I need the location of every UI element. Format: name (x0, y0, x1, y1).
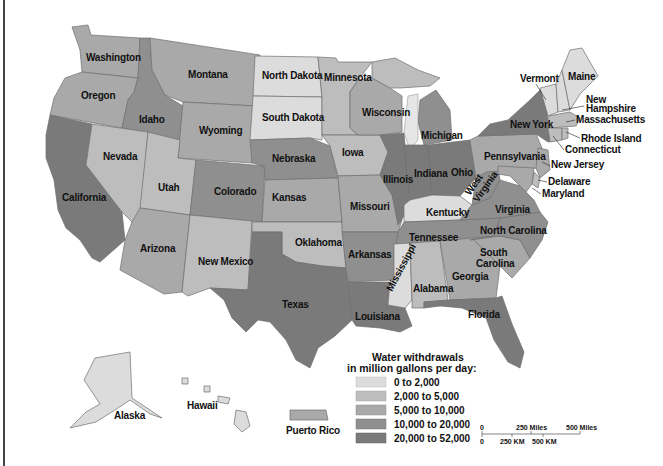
label-new-jersey: New Jersey (551, 159, 605, 170)
label-kentucky: Kentucky (426, 207, 470, 218)
label-louisiana: Louisiana (355, 311, 401, 322)
legend-label-1: 2,000 to 5,000 (394, 391, 459, 402)
legend-label-3: 10,000 to 20,000 (394, 419, 471, 430)
lake-michigan (404, 94, 418, 150)
label-arkansas: Arkansas (348, 249, 392, 260)
label-nevada: Nevada (103, 151, 138, 162)
label-vermont: Vermont (520, 73, 559, 84)
label-montana: Montana (188, 69, 228, 80)
label-michigan: Michigan (421, 130, 463, 141)
legend-label-0: 0 to 2,000 (394, 377, 440, 388)
legend-swatch-3 (356, 419, 386, 429)
label-maryland: Maryland (542, 188, 584, 199)
state-hawaii[interactable] (234, 410, 250, 432)
state-michigan-up[interactable] (372, 58, 440, 88)
label-colorado: Colorado (214, 186, 256, 197)
legend-label-2: 5,000 to 10,000 (394, 405, 465, 416)
legend: Water withdrawals in million gallons per… (347, 351, 477, 444)
label-minnesota: Minnesota (324, 72, 372, 83)
scale-miles-500: 500 Miles (566, 424, 597, 431)
label-utah: Utah (158, 182, 180, 193)
label-south-dakota: South Dakota (262, 112, 325, 123)
us-water-withdrawal-map: Washington Oregon California Idaho Nevad… (0, 0, 663, 466)
label-wyoming: Wyoming (199, 125, 243, 136)
label-delaware: Delaware (548, 176, 591, 187)
label-massachusetts: Massachusetts (576, 114, 646, 125)
label-texas: Texas (282, 299, 309, 310)
label-wisconsin: Wisconsin (362, 107, 410, 118)
label-florida: Florida (468, 309, 501, 320)
legend-title-line2: in million gallons per day: (347, 362, 477, 374)
state-rhode-island[interactable] (562, 128, 568, 140)
label-puerto-rico: Puerto Rico (286, 425, 340, 436)
label-south-carolina-line1: South (480, 247, 507, 258)
scale-km-500: 500 KM (532, 438, 557, 445)
label-alabama: Alabama (413, 283, 454, 294)
legend-swatch-1 (356, 391, 386, 401)
scale-miles-250: 250 Miles (516, 424, 547, 431)
label-idaho: Idaho (139, 114, 165, 125)
scale-km-0: 0 (480, 438, 484, 445)
label-north-carolina: North Carolina (480, 225, 547, 236)
label-alaska: Alaska (114, 410, 146, 421)
label-north-dakota: North Dakota (262, 70, 323, 81)
label-new-mexico: New Mexico (198, 256, 253, 267)
label-georgia: Georgia (452, 271, 489, 282)
label-new-york: New York (510, 119, 554, 130)
label-illinois: Illinois (383, 174, 414, 185)
legend-label-4: 20,000 to 52,000 (394, 433, 471, 444)
label-nebraska: Nebraska (272, 153, 316, 164)
label-rhode-island: Rhode Island (581, 133, 641, 144)
label-virginia: Virginia (495, 204, 531, 215)
label-indiana: Indiana (414, 168, 448, 179)
label-tennessee: Tennessee (409, 232, 459, 243)
label-hawaii: Hawaii (187, 400, 218, 411)
scale-miles-0: 0 (480, 424, 484, 431)
label-south-carolina-line2: Carolina (476, 258, 515, 269)
label-connecticut: Connecticut (565, 144, 621, 155)
label-california: California (62, 192, 107, 203)
legend-swatch-4 (356, 433, 386, 443)
legend-swatch-0 (356, 377, 386, 387)
territory-puerto-rico[interactable] (290, 410, 328, 420)
state-connecticut[interactable] (548, 128, 562, 142)
label-ohio: Ohio (451, 167, 473, 178)
map-frame: Washington Oregon California Idaho Nevad… (0, 0, 663, 466)
label-maine: Maine (568, 71, 596, 82)
label-oregon: Oregon (81, 90, 115, 101)
scale-km-250: 250 KM (500, 438, 525, 445)
label-new-hampshire-line2: Hampshire (586, 103, 637, 114)
scale-bar: 0 250 Miles 500 Miles 0 250 KM 500 KM (480, 424, 597, 445)
label-kansas: Kansas (272, 192, 307, 203)
label-pennsylvania: Pennsylvania (484, 151, 546, 162)
legend-swatch-2 (356, 405, 386, 415)
label-washington: Washington (86, 52, 141, 63)
label-iowa: Iowa (342, 147, 364, 158)
label-oklahoma: Oklahoma (295, 237, 342, 248)
label-arizona: Arizona (140, 243, 176, 254)
label-missouri: Missouri (350, 201, 390, 212)
